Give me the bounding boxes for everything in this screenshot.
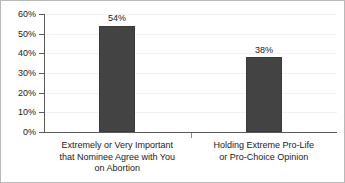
gridline-60	[44, 14, 337, 15]
category-label-2-line-1: Holding Extreme Pro-Life	[191, 140, 338, 152]
category-label-2-line-2: or Pro-Choice Opinion	[191, 152, 338, 164]
category-label-1-line-2: that Nominee Agree with You	[44, 152, 191, 164]
category-label-1-line-1: Extremely or Very Important	[44, 140, 191, 152]
y-tick-20	[39, 93, 44, 94]
bar-value-label-2: 38%	[246, 45, 282, 55]
y-tick-50	[39, 34, 44, 35]
y-tick-label-40: 40%	[0, 49, 36, 58]
gridline-30	[44, 73, 337, 74]
y-tick-60	[39, 14, 44, 15]
y-axis-line	[44, 14, 45, 133]
y-tick-label-10: 10%	[0, 108, 36, 117]
y-tick-label-0: 0%	[0, 128, 36, 137]
bar-chart: 54% 38% 60% 50% 40% 30% 20% 10% 0% Extre…	[0, 0, 345, 183]
y-tick-label-60: 60%	[0, 10, 36, 19]
x-axis-category-labels: Extremely or Very Important that Nominee…	[44, 140, 337, 182]
gridline-40	[44, 53, 337, 54]
gridline-10	[44, 112, 337, 113]
y-tick-10	[39, 112, 44, 113]
bar-holding-extreme-opinion	[246, 57, 282, 132]
gridline-50	[44, 34, 337, 35]
category-label-1: Extremely or Very Important that Nominee…	[44, 140, 191, 182]
y-tick-40	[39, 53, 44, 54]
y-tick-label-20: 20%	[0, 89, 36, 98]
y-tick-30	[39, 73, 44, 74]
bar-extremely-or-very-important	[99, 26, 135, 132]
category-separator-tick	[191, 133, 192, 138]
y-tick-label-30: 30%	[0, 69, 36, 78]
bar-value-label-1: 54%	[99, 13, 135, 23]
gridline-20	[44, 93, 337, 94]
category-label-1-line-3: on Abortion	[44, 163, 191, 175]
plot-area: 54% 38%	[44, 14, 337, 132]
y-tick-0	[39, 132, 44, 133]
y-tick-label-50: 50%	[0, 30, 36, 39]
category-label-2: Holding Extreme Pro-Life or Pro-Choice O…	[191, 140, 338, 182]
